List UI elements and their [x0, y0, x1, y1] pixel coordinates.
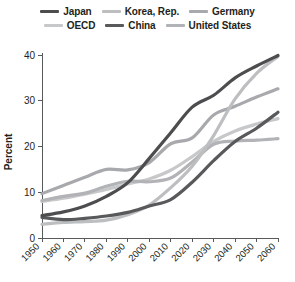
x-axis: 1950196019701980199020002010202020302040… — [19, 238, 278, 263]
x-tick-label: 2020 — [169, 241, 192, 264]
legend-item-united-states: United States — [166, 20, 252, 31]
legend-row: Japan Korea, Rep. Germany — [40, 6, 255, 17]
x-tick-label: 1950 — [19, 241, 42, 264]
legend-item-japan: Japan — [40, 6, 91, 17]
legend-item-korea: Korea, Rep. — [102, 6, 179, 17]
y-tick-label: 10 — [24, 187, 36, 198]
y-tick-label: 40 — [24, 50, 36, 61]
line-chart: Japan Korea, Rep. Germany OECD China — [0, 0, 295, 282]
x-tick-label: 1980 — [83, 241, 106, 264]
x-tick-label: 2050 — [233, 241, 256, 264]
x-tick-label: 2040 — [212, 241, 235, 264]
y-tick-label: 30 — [24, 95, 36, 106]
x-tick-label: 2030 — [190, 241, 213, 264]
series-line-oecd — [42, 119, 278, 202]
legend-item-germany: Germany — [189, 6, 255, 17]
x-tick-label: 1960 — [40, 241, 63, 264]
legend-swatch-korea — [102, 10, 121, 14]
x-tick-label: 2000 — [126, 241, 149, 264]
legend-swatch-china — [105, 24, 124, 28]
x-tick-label: 2010 — [147, 241, 170, 264]
legend-label-korea: Korea, Rep. — [125, 6, 179, 17]
legend-swatch-germany — [189, 10, 208, 14]
legend-swatch-japan — [40, 10, 59, 14]
legend-label-germany: Germany — [212, 6, 255, 17]
x-tick-label: 1970 — [62, 241, 85, 264]
legend-row: OECD China United States — [44, 20, 251, 31]
y-axis-title: Percent — [3, 133, 14, 170]
chart-legend: Japan Korea, Rep. Germany OECD China — [0, 6, 295, 31]
y-tick-label: 20 — [24, 141, 36, 152]
chart-plot-area: 010203040 195019601970198019902000201020… — [0, 0, 295, 282]
y-axis: 010203040 — [24, 50, 42, 244]
legend-item-china: China — [105, 20, 155, 31]
legend-label-japan: Japan — [63, 6, 91, 17]
x-tick-label: 2060 — [255, 241, 278, 264]
x-tick-label: 1990 — [105, 241, 128, 264]
legend-label-china: China — [128, 20, 155, 31]
legend-label-oecd: OECD — [67, 20, 96, 31]
legend-item-oecd: OECD — [44, 20, 96, 31]
legend-swatch-united-states — [166, 24, 185, 28]
series-lines — [42, 55, 278, 224]
legend-swatch-oecd — [44, 24, 63, 28]
legend-label-united-states: United States — [189, 20, 252, 31]
